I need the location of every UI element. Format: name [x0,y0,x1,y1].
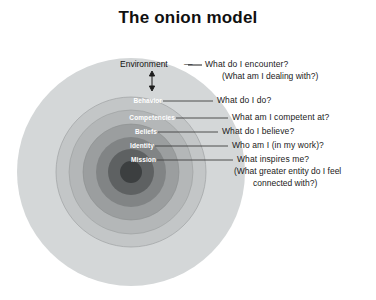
environment-dash: — [184,59,193,69]
question-mission: What inspires me? [237,154,309,164]
label-behavior: Behavior [120,97,162,104]
onion-model-figure: The onion model Environment Behavior Com… [0,0,376,300]
label-beliefs: Beliefs [113,128,157,135]
label-competencies: Competencies [110,114,175,121]
label-environment: Environment [120,59,168,69]
question-environment-sub: (What am I dealing with?) [222,71,318,81]
question-environment: What do I encounter? [205,59,288,69]
label-identity: Identity [110,142,154,149]
question-beliefs: What do I believe? [222,126,294,136]
question-behavior: What do I do? [217,95,271,105]
question-mission-sub2: connected with?) [253,178,317,188]
onion-diagram-svg [0,0,376,300]
question-mission-sub: (What greater entity do I feel [234,166,341,176]
ring-core [120,161,142,183]
question-competencies: What am I competent at? [232,112,329,122]
label-mission: Mission [110,156,156,163]
question-identity: Who am I (in my work)? [232,140,324,150]
